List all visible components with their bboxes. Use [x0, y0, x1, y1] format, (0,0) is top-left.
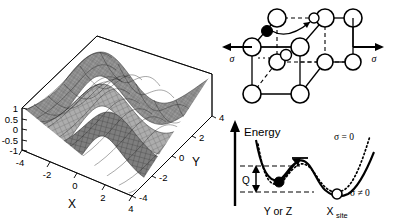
x-tick-1: -2 [43, 169, 51, 180]
x-axis-title: X [68, 197, 76, 211]
left-site-label: Y or Z [264, 205, 293, 217]
energy-axis-arrowhead [230, 120, 240, 132]
interstitial-site-target [309, 13, 319, 23]
z-tick-2: 0 [13, 124, 18, 135]
energy-axis: Energy [230, 120, 281, 206]
figure-root: 1 0.5 0 -0.5 -1 -4 -2 0 2 4 [0, 0, 396, 224]
z-tick-4: -1 [10, 145, 18, 156]
z-axis: 1 0.5 0 -0.5 -1 [2, 103, 27, 156]
surface-plot-svg: 1 0.5 0 -0.5 -1 -4 -2 0 2 4 [0, 0, 225, 224]
atom-in-right-well [332, 189, 342, 199]
atom-corner-front-bottom-right [291, 85, 309, 103]
atom-corner-front-bottom-left [243, 85, 261, 103]
y-axis-title: Y [192, 155, 200, 169]
q-measure-arrow: Q [242, 165, 260, 193]
atom-corner-front-top-right [291, 38, 309, 56]
sigma-nonzero-label: σ ≠ 0 [350, 188, 370, 198]
stress-arrow-right-head [375, 43, 384, 51]
y-tick-1: 2 [199, 132, 204, 143]
lattice-svg: σ σ [222, 0, 396, 118]
atom-corner-ext-bottom-right [345, 54, 361, 70]
occupied-interstitial-atom [262, 26, 273, 37]
y-tick-3: -2 [159, 172, 167, 183]
stress-label-right: σ [372, 53, 378, 64]
lattice-atoms [243, 9, 362, 103]
stress-arrow-left-head [222, 43, 231, 51]
3d-surface-plot-panel: 1 0.5 0 -0.5 -1 -4 -2 0 2 4 [0, 0, 225, 224]
q-label: Q [242, 175, 250, 186]
right-site-label: X [326, 205, 333, 217]
stress-label-left: σ [230, 53, 236, 64]
energy-diagram-panel: Energy Q [222, 114, 396, 224]
x-axis: -4 -2 0 2 4 X [16, 150, 134, 214]
y-tick-4: -4 [139, 192, 147, 203]
x-tick-2: 0 [72, 180, 77, 191]
right-site-label-group: X site [326, 205, 347, 220]
energy-axis-label: Energy [244, 126, 281, 138]
y-tick-2: 0 [179, 152, 184, 163]
bcc-unit-cell-panel: σ σ [222, 0, 396, 118]
z-tick-0: 1 [13, 103, 18, 114]
x-tick-3: 2 [100, 192, 105, 203]
atom-corner-back-top-left [268, 9, 286, 27]
x-tick-0: -4 [16, 157, 24, 168]
energy-svg: Energy Q [222, 114, 396, 224]
jump-arrow [282, 161, 298, 180]
atom-corner-back-bottom-right [317, 54, 333, 70]
interstitial-site-center [281, 50, 292, 61]
sigma-zero-label: σ = 0 [334, 132, 354, 142]
right-site-sublabel: site [336, 211, 348, 220]
x-tick-4: 4 [128, 203, 133, 214]
